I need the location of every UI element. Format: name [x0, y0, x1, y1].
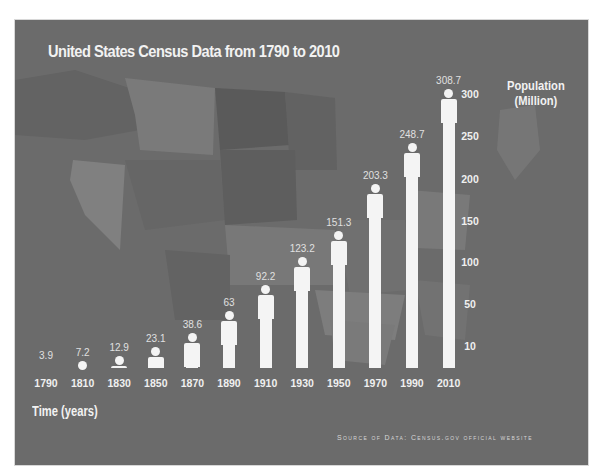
person-torso-icon [331, 241, 347, 265]
y-tick-label: 250 [455, 130, 485, 142]
x-tick-label: 1850 [136, 377, 176, 389]
x-tick-label: 1930 [282, 377, 322, 389]
map-state-shape [220, 150, 297, 225]
person-head-icon [261, 285, 270, 294]
map-state-shape [497, 105, 540, 180]
value-label: 151.3 [316, 217, 362, 228]
person-torso-icon [404, 153, 420, 177]
bar-column [223, 344, 235, 368]
value-label: 308.7 [426, 75, 472, 86]
x-tick-label: 1830 [99, 377, 139, 389]
x-tick-label: 1990 [392, 377, 432, 389]
person-torso-icon [184, 343, 200, 367]
x-tick-label: 1950 [319, 377, 359, 389]
person-head-icon [298, 257, 307, 266]
person-head-icon [444, 89, 453, 98]
y-axis-label-line2: (Million) [507, 93, 565, 108]
x-tick-label: 1790 [26, 377, 66, 389]
bar-column [406, 176, 418, 368]
value-label: 92.2 [243, 271, 289, 282]
person-torso-icon [221, 321, 237, 345]
y-tick-label: 300 [455, 88, 485, 100]
x-tick-label: 1910 [246, 377, 286, 389]
bar-column [296, 290, 308, 368]
person-head-icon [371, 184, 380, 193]
x-tick-label: 2010 [429, 377, 469, 389]
value-label: 248.7 [389, 129, 435, 140]
value-label: 38.6 [169, 319, 215, 330]
map-state-shape [70, 160, 125, 250]
value-label: 203.3 [352, 170, 398, 181]
person-torso-icon [367, 194, 383, 218]
bar-column [333, 264, 345, 368]
x-axis-label: Time (years) [32, 403, 98, 419]
x-tick-label: 1810 [63, 377, 103, 389]
person-head-icon [408, 143, 417, 152]
y-tick-label: 200 [455, 173, 485, 185]
bar-column [369, 217, 381, 368]
bar-column [150, 367, 162, 368]
value-label: 23.1 [133, 333, 179, 344]
bar-column [260, 318, 272, 368]
value-label: 123.2 [279, 243, 325, 254]
map-state-shape [15, 70, 140, 140]
source-annotation: Source of Data: Census.gov official webs… [337, 434, 533, 441]
person-torso-icon [441, 99, 457, 123]
value-label: 63 [206, 297, 252, 308]
map-state-shape [165, 250, 230, 320]
bar-column [113, 367, 125, 368]
y-tick-label: 50 [455, 298, 485, 310]
map-state-shape [125, 160, 225, 230]
map-state-shape [215, 88, 290, 150]
bar-column [443, 122, 455, 368]
y-tick-label: 150 [455, 215, 485, 227]
x-tick-label: 1970 [355, 377, 395, 389]
chart-title: United States Census Data from 1790 to 2… [48, 42, 339, 62]
bar-column [186, 366, 198, 368]
y-axis-label-line1: Population [507, 78, 565, 93]
y-axis-label: Population (Million) [507, 78, 565, 108]
y-tick-label: 100 [455, 256, 485, 268]
person-head-icon [188, 333, 197, 342]
x-tick-label: 1890 [209, 377, 249, 389]
person-head-icon [115, 356, 124, 365]
person-head-icon [225, 311, 234, 320]
y-tick-label: 10 [455, 340, 485, 352]
x-tick-label: 1870 [172, 377, 212, 389]
person-torso-icon [258, 295, 274, 319]
chart-panel: United States Census Data from 1790 to 2… [15, 20, 588, 465]
map-state-shape [125, 78, 215, 155]
person-torso-icon [294, 267, 310, 291]
